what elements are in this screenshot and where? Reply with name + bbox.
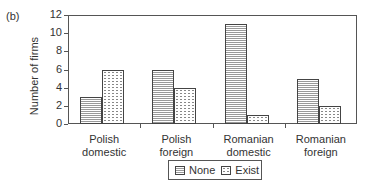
legend-label-exist: Exist [235, 164, 259, 176]
bar-exist [102, 70, 124, 125]
y-tick-label: 10 [42, 26, 62, 38]
bar-none [152, 70, 174, 125]
y-tick-label: 2 [42, 99, 62, 111]
x-tick-mark [213, 124, 214, 128]
legend-item-exist: Exist [221, 164, 259, 176]
legend-item-none: None [175, 164, 215, 176]
y-tick-label: 8 [42, 44, 62, 56]
bar-exist [319, 106, 341, 124]
y-tick-mark [64, 124, 68, 125]
category-label: Polishdomestic [68, 133, 140, 159]
category-label: Polishforeign [140, 133, 212, 159]
x-tick-mark [285, 124, 286, 128]
category-label: Romaniandomestic [213, 133, 285, 159]
panel-label: (b) [6, 10, 19, 22]
y-tick-label: 0 [42, 117, 62, 129]
bar-none [297, 79, 319, 124]
none-swatch-icon [175, 166, 185, 175]
bar-exist [247, 115, 269, 124]
category-label: Romanianforeign [285, 133, 357, 159]
y-tick-label: 6 [42, 63, 62, 75]
bar-none [80, 97, 102, 124]
y-tick-label: 4 [42, 81, 62, 93]
legend-label-none: None [189, 164, 215, 176]
bar-exist [174, 88, 196, 124]
exist-swatch-icon [221, 166, 231, 175]
x-tick-mark [140, 124, 141, 128]
y-axis-label: Number of firms [28, 26, 40, 126]
legend: None Exist [168, 160, 262, 180]
bar-none [225, 24, 247, 124]
y-tick-label: 12 [42, 8, 62, 20]
